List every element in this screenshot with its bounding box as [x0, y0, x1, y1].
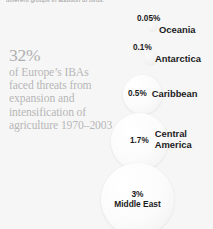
callout-value-central-america: 1.7% [130, 136, 149, 146]
callout-antarctica: 0.1% Antarctica [133, 43, 201, 64]
infographic-panel: different groups in addition to birds. 3… [0, 0, 213, 229]
callout-label-antarctica: Antarctica [155, 53, 201, 64]
callout-label-central-america: Central America [155, 128, 192, 150]
callout-label-central-america-line1: Central [155, 128, 187, 139]
bubble-chart: 3% Middle East 0.05% Oceania 0.1% Antarc… [0, 0, 213, 229]
callout-caribbean: 0.5% Caribbean [128, 88, 198, 99]
callout-value-caribbean: 0.5% [128, 89, 147, 99]
callout-label-caribbean: Caribbean [152, 88, 198, 99]
callout-label-oceania: Oceania [159, 24, 195, 35]
callout-value-antarctica: 0.1% [133, 43, 201, 53]
callout-central-america: 1.7% Central America [130, 128, 192, 150]
bubble-label-middle-east: Middle East [114, 200, 161, 210]
bubble-middle-east: 3% Middle East [101, 163, 174, 229]
callout-oceania: 0.05% Oceania [137, 14, 195, 35]
callout-label-central-america-line2: America [155, 139, 192, 150]
callout-value-oceania: 0.05% [137, 14, 195, 24]
